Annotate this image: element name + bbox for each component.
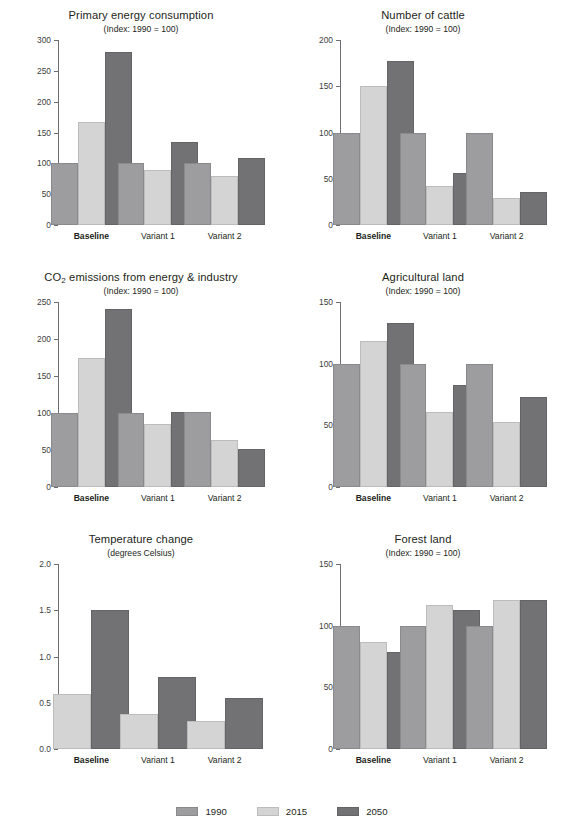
y-tick-label: 150 <box>319 297 333 307</box>
legend: 199020152050 <box>0 806 564 817</box>
bar-1990-baseline <box>51 163 78 225</box>
bar-2050-variant-2 <box>520 192 547 225</box>
bar-2015-variant-2 <box>493 422 520 487</box>
chart-subtitle: (Index: 1990 = 100) <box>282 24 564 35</box>
x-axis-label: Variant 2 <box>191 231 258 241</box>
legend-item-2050[interactable]: 2050 <box>337 806 387 817</box>
x-axis-label: Variant 2 <box>191 493 258 503</box>
bar-2015-variant-2 <box>187 721 225 749</box>
y-tick-label: 150 <box>37 128 51 138</box>
y-tick-label: 100 <box>37 158 51 168</box>
chart-subtitle: (Index: 1990 = 100) <box>0 24 282 35</box>
x-axis-label: Baseline <box>58 755 125 765</box>
x-axis-label: Variant 2 <box>473 231 540 241</box>
bar-group-variant-2: Variant 2 <box>191 40 258 225</box>
bar-1990-variant-2 <box>466 626 493 749</box>
chart-subtitle: (Index: 1990 = 100) <box>282 548 564 559</box>
y-tick-label: 50 <box>324 420 333 430</box>
bar-1990-variant-1 <box>118 413 145 487</box>
bar-2015-variant-1 <box>144 424 171 487</box>
chart-panel-forest-land: Forest land (Index: 1990 = 100) 05010015… <box>282 524 564 786</box>
chart-panel-temperature-change: Temperature change (degrees Celsius) 0.0… <box>0 524 282 786</box>
bar-group-variant-2: Variant 2 <box>473 302 540 487</box>
bar-2015-variant-1 <box>120 714 158 749</box>
bar-1990-baseline <box>333 133 360 226</box>
y-tick-label: 100 <box>37 408 51 418</box>
y-tick-mark <box>54 749 58 750</box>
chart-title: Agricultural land <box>282 271 564 284</box>
bar-1990-variant-1 <box>400 133 427 226</box>
y-tick-label: 150 <box>319 81 333 91</box>
y-tick-label: 150 <box>37 371 51 381</box>
x-axis-label: Variant 1 <box>407 231 474 241</box>
y-tick-label: 100 <box>319 621 333 631</box>
plot-area-number-of-cattle: 050100150200BaselineVariant 1Variant 2 <box>340 40 540 225</box>
bar-2015-variant-1 <box>426 186 453 225</box>
y-tick-label: 200 <box>37 334 51 344</box>
bar-group-variant-1: Variant 1 <box>125 302 192 487</box>
bar-2050-variant-2 <box>520 397 547 487</box>
bar-group-variant-2: Variant 2 <box>191 302 258 487</box>
y-tick-label: 250 <box>37 66 51 76</box>
plot-area-agricultural-land: 050100150BaselineVariant 1Variant 2 <box>340 302 540 487</box>
legend-item-1990[interactable]: 1990 <box>176 806 226 817</box>
y-tick-label: 50 <box>42 445 51 455</box>
x-axis-label: Variant 1 <box>125 231 192 241</box>
bar-group-baseline: Baseline <box>58 40 125 225</box>
plot-area-temperature-change: 0.00.51.01.52.0BaselineVariant 1Variant … <box>58 564 258 749</box>
legend-swatch-icon-2015 <box>257 807 279 816</box>
bar-1990-baseline <box>51 413 78 487</box>
y-tick-label: 0.5 <box>39 698 51 708</box>
legend-swatch-icon-1990 <box>176 807 198 816</box>
bar-1990-variant-2 <box>184 412 211 487</box>
y-tick-mark <box>54 225 58 226</box>
bar-1990-variant-1 <box>400 626 427 749</box>
bar-1990-variant-1 <box>118 163 145 225</box>
chart-panel-agricultural-land: Agricultural land (Index: 1990 = 100) 05… <box>282 262 564 524</box>
bar-2015-variant-2 <box>211 440 238 487</box>
bar-group-baseline: Baseline <box>58 564 125 749</box>
bar-2015-variant-2 <box>211 176 238 225</box>
bar-1990-variant-2 <box>184 163 211 225</box>
y-tick-label: 200 <box>37 97 51 107</box>
bar-group-baseline: Baseline <box>340 564 407 749</box>
plot-area-primary-energy-consumption: 050100150200250300BaselineVariant 1Varia… <box>58 40 258 225</box>
bar-group-variant-1: Variant 1 <box>407 564 474 749</box>
chart-panel-co2-emissions-from-energy-and-industry: CO2 emissions from energy & industry (In… <box>0 262 282 524</box>
y-tick-mark <box>336 749 340 750</box>
x-axis-label: Variant 2 <box>473 493 540 503</box>
y-tick-label: 300 <box>37 35 51 45</box>
x-axis-label: Variant 1 <box>407 493 474 503</box>
chart-title: CO2 emissions from energy & industry <box>0 271 282 285</box>
bar-2050-variant-2 <box>238 449 265 487</box>
bar-2015-variant-1 <box>144 170 171 226</box>
chart-subtitle: (degrees Celsius) <box>0 548 282 559</box>
y-tick-mark <box>54 487 58 488</box>
bar-1990-baseline <box>333 626 360 749</box>
bar-2015-variant-1 <box>426 412 453 487</box>
bar-1990-baseline <box>333 364 360 487</box>
bar-2015-baseline <box>360 341 387 487</box>
bar-2015-baseline <box>78 122 105 225</box>
x-axis-label: Variant 2 <box>191 755 258 765</box>
legend-label: 2015 <box>286 806 307 817</box>
chart-title: Forest land <box>282 533 564 546</box>
legend-item-2015[interactable]: 2015 <box>257 806 307 817</box>
bar-group-variant-2: Variant 2 <box>473 564 540 749</box>
chart-panel-primary-energy-consumption: Primary energy consumption (Index: 1990 … <box>0 0 282 262</box>
small-multiples-figure: Primary energy consumption (Index: 1990 … <box>0 0 564 831</box>
legend-label: 2050 <box>366 806 387 817</box>
bar-2015-baseline <box>360 642 387 749</box>
x-axis-label: Variant 1 <box>125 493 192 503</box>
y-tick-label: 1.5 <box>39 605 51 615</box>
y-tick-label: 50 <box>324 682 333 692</box>
bar-group-variant-2: Variant 2 <box>473 40 540 225</box>
x-axis-label: Variant 1 <box>407 755 474 765</box>
chart-title: Primary energy consumption <box>0 9 282 22</box>
y-tick-label: 1.0 <box>39 652 51 662</box>
chart-title: Temperature change <box>0 533 282 546</box>
bar-group-variant-1: Variant 1 <box>125 564 192 749</box>
y-tick-label: 250 <box>37 297 51 307</box>
bar-1990-variant-2 <box>466 133 493 226</box>
bar-2050-variant-2 <box>238 158 265 225</box>
